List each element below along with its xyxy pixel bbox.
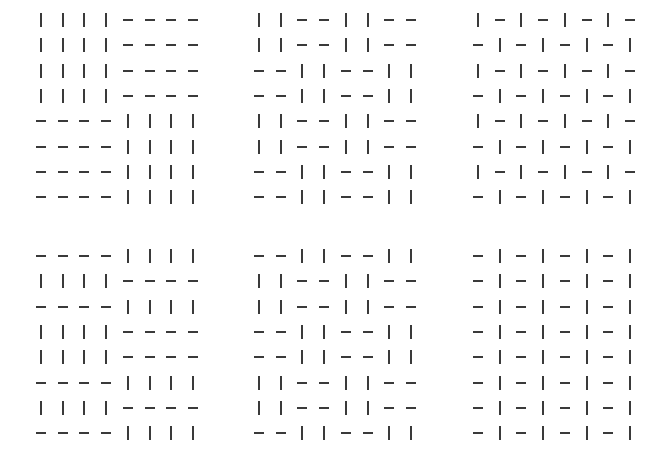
horizontal-segment [271,246,291,266]
vertical-segment [598,111,618,131]
vertical-segment [271,297,291,317]
vertical-segment [249,297,269,317]
vertical-line-icon [564,114,566,128]
vertical-segment [249,10,269,30]
horizontal-segment [468,35,488,55]
vertical-line-icon [105,13,107,27]
vertical-line-icon [367,38,369,52]
vertical-segment [292,61,312,81]
horizontal-line-icon [79,171,89,173]
horizontal-segment [490,162,510,182]
vertical-line-icon [367,274,369,288]
horizontal-line-icon [603,146,613,148]
vertical-segment [314,347,334,367]
vertical-line-icon [301,325,303,339]
horizontal-line-icon [254,255,264,257]
horizontal-line-icon [79,146,89,148]
horizontal-line-icon [363,432,373,434]
vertical-segment [140,373,160,393]
horizontal-line-icon [603,432,613,434]
vertical-line-icon [40,325,42,339]
horizontal-line-icon [516,196,526,198]
horizontal-line-icon [363,356,373,358]
horizontal-line-icon [473,331,483,333]
vertical-segment [490,398,510,418]
vertical-line-icon [345,300,347,314]
vertical-segment [53,35,73,55]
horizontal-line-icon [254,70,264,72]
horizontal-segment [577,10,597,30]
horizontal-segment [401,137,421,157]
horizontal-segment [620,162,640,182]
vertical-segment [620,347,640,367]
vertical-segment [249,111,269,131]
horizontal-line-icon [58,120,68,122]
horizontal-segment [598,246,618,266]
vertical-segment [468,61,488,81]
vertical-line-icon [192,376,194,390]
horizontal-segment [96,297,116,317]
horizontal-segment [468,423,488,443]
horizontal-line-icon [36,171,46,173]
vertical-segment [249,35,269,55]
horizontal-segment [401,297,421,317]
horizontal-segment [336,246,356,266]
horizontal-line-icon [188,70,198,72]
vertical-line-icon [542,300,544,314]
vertical-segment [161,373,181,393]
vertical-segment [620,137,640,157]
horizontal-line-icon [473,95,483,97]
vertical-segment [490,423,510,443]
horizontal-segment [598,137,618,157]
horizontal-line-icon [319,280,329,282]
horizontal-line-icon [495,171,505,173]
vertical-segment [183,423,203,443]
horizontal-line-icon [560,306,570,308]
horizontal-segment [490,61,510,81]
vertical-line-icon [586,140,588,154]
horizontal-line-icon [406,280,416,282]
vertical-segment [31,10,51,30]
vertical-segment [292,86,312,106]
horizontal-line-icon [516,382,526,384]
horizontal-segment [183,347,203,367]
vertical-line-icon [149,249,151,263]
vertical-line-icon [62,64,64,78]
vertical-line-icon [62,38,64,52]
horizontal-segment [74,162,94,182]
vertical-line-icon [499,376,501,390]
vertical-line-icon [388,325,390,339]
horizontal-line-icon [384,44,394,46]
vertical-line-icon [542,89,544,103]
horizontal-line-icon [363,95,373,97]
vertical-line-icon [192,165,194,179]
vertical-segment [74,347,94,367]
horizontal-line-icon [603,382,613,384]
horizontal-segment [161,347,181,367]
vertical-line-icon [40,274,42,288]
vertical-line-icon [149,140,151,154]
vertical-line-icon [410,165,412,179]
vertical-line-icon [127,376,129,390]
horizontal-segment [118,61,138,81]
vertical-line-icon [40,401,42,415]
vertical-line-icon [258,114,260,128]
horizontal-segment [598,398,618,418]
horizontal-segment [96,246,116,266]
horizontal-line-icon [254,196,264,198]
vertical-line-icon [62,401,64,415]
horizontal-line-icon [603,196,613,198]
vertical-line-icon [586,350,588,364]
vertical-segment [577,137,597,157]
vertical-line-icon [388,89,390,103]
vertical-segment [555,111,575,131]
horizontal-line-icon [36,432,46,434]
horizontal-line-icon [58,146,68,148]
horizontal-segment [336,61,356,81]
horizontal-line-icon [58,382,68,384]
horizontal-line-icon [188,407,198,409]
horizontal-segment [379,373,399,393]
horizontal-line-icon [363,255,373,257]
vertical-segment [271,398,291,418]
horizontal-line-icon [516,146,526,148]
